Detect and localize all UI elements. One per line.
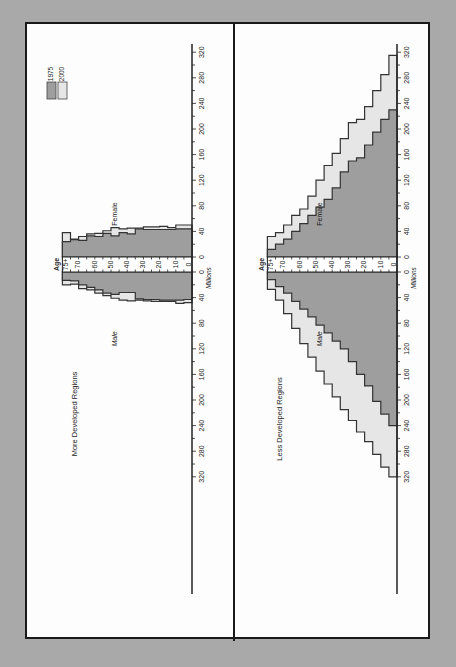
panel-title: Less Developed Regions — [275, 377, 284, 461]
population-pyramid-chart: 01020304050607075+Age0040408080120120160… — [27, 24, 432, 641]
value-tick-label: 80 — [403, 319, 410, 327]
value-tick-label: 120 — [198, 343, 205, 355]
age-tick-label: 70 — [74, 261, 81, 269]
panel-more-developed: 01020304050607075+Age0040408080120120160… — [53, 44, 211, 594]
male-label: Male — [111, 331, 118, 346]
value-tick-label: 280 — [198, 72, 205, 84]
millions-axis-label: Millions — [410, 266, 417, 288]
age-tick-label: 70 — [279, 261, 286, 269]
value-tick-label: 280 — [198, 445, 205, 457]
value-tick-label: 320 — [403, 46, 410, 58]
value-tick-label: 280 — [403, 445, 410, 457]
millions-axis-label: Millions — [205, 266, 212, 288]
value-tick-label: 80 — [198, 202, 205, 210]
value-tick-label: 200 — [198, 394, 205, 406]
value-tick-label: 40 — [403, 227, 410, 235]
value-tick-label: 80 — [198, 319, 205, 327]
age-tick-label: 75+ — [267, 259, 274, 271]
value-tick-label: 160 — [198, 368, 205, 380]
value-tick-label: 120 — [403, 343, 410, 355]
male-label: Male — [316, 331, 323, 346]
panel-title: More Developed Regions — [70, 371, 79, 456]
bars-female-1975 — [62, 229, 192, 257]
value-tick-label: 320 — [198, 46, 205, 58]
value-tick-label: 0 — [198, 255, 205, 259]
value-tick-label: 0 — [403, 255, 410, 259]
legend-swatch-1975 — [47, 82, 56, 99]
value-tick-label: 320 — [198, 471, 205, 483]
value-tick-label: 160 — [403, 368, 410, 380]
legend-label-2000: 2000 — [58, 66, 65, 81]
value-tick-label: 40 — [403, 294, 410, 302]
value-tick-label: 240 — [403, 97, 410, 109]
age-tick-label: 0 — [390, 262, 397, 266]
age-tick-label: 20 — [360, 261, 367, 269]
age-axis-title: Age — [258, 258, 266, 271]
value-tick-label: 200 — [198, 123, 205, 135]
age-tick-label: 10 — [377, 261, 384, 269]
value-tick-label: 280 — [403, 72, 410, 84]
age-tick-label: 50 — [312, 261, 319, 269]
age-tick-label: 0 — [185, 262, 192, 266]
value-tick-label: 200 — [403, 123, 410, 135]
value-tick-label: 240 — [198, 420, 205, 432]
age-tick-label: 60 — [91, 261, 98, 269]
value-tick-label: 40 — [198, 294, 205, 302]
female-label: Female — [111, 202, 118, 225]
legend-label-1975: 1975 — [47, 66, 54, 81]
value-tick-label: 200 — [403, 394, 410, 406]
age-tick-label: 60 — [296, 261, 303, 269]
legend-swatch-2000 — [58, 82, 67, 99]
age-tick-label: 75+ — [62, 259, 69, 271]
value-tick-label: 80 — [403, 202, 410, 210]
value-tick-label: 240 — [403, 420, 410, 432]
age-tick-label: 30 — [344, 261, 351, 269]
legend: 19752000 — [47, 66, 67, 99]
age-tick-label: 40 — [123, 261, 130, 269]
value-tick-label: 240 — [198, 97, 205, 109]
panel-less-developed: 01020304050607075+Age0040408080120120160… — [258, 44, 416, 594]
value-tick-label: 320 — [403, 471, 410, 483]
figure-card: 01020304050607075+Age0040408080120120160… — [25, 22, 430, 639]
female-label: Female — [316, 202, 323, 225]
age-tick-label: 40 — [328, 261, 335, 269]
value-tick-label: 160 — [198, 149, 205, 161]
value-tick-label: 120 — [198, 174, 205, 186]
age-axis-title: Age — [53, 258, 61, 271]
value-tick-label: 40 — [198, 227, 205, 235]
age-tick-label: 20 — [155, 261, 162, 269]
age-tick-label: 50 — [107, 261, 114, 269]
value-tick-label: 120 — [403, 174, 410, 186]
age-tick-label: 30 — [139, 261, 146, 269]
value-tick-label: 160 — [403, 149, 410, 161]
age-tick-label: 10 — [172, 261, 179, 269]
